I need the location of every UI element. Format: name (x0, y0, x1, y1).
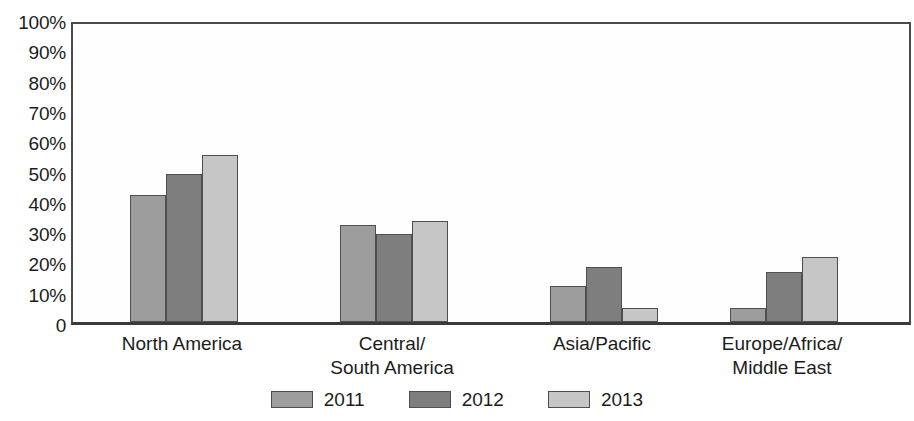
x-axis-category-label: Central/ South America (272, 332, 512, 380)
bar (550, 286, 586, 322)
legend-label: 2013 (601, 390, 643, 409)
y-axis-tick-label: 70% (0, 103, 66, 122)
y-axis-tick-label: 10% (0, 285, 66, 304)
y-axis-tick-label: 40% (0, 194, 66, 213)
legend-item: 2013 (548, 390, 643, 409)
bar (202, 155, 238, 322)
bar (802, 257, 838, 322)
bar (130, 195, 166, 322)
y-axis-tick-label: 0 (0, 316, 66, 335)
bars-layer (73, 24, 909, 322)
y-axis-tick-label: 80% (0, 73, 66, 92)
y-axis: 100%90%80%70%60%50%40%30%20%10%0 (0, 0, 66, 340)
x-axis-category-label: Europe/Africa/ Middle East (662, 332, 902, 380)
legend-label: 2012 (462, 390, 504, 409)
legend-swatch-icon (409, 391, 451, 408)
y-axis-tick-label: 20% (0, 255, 66, 274)
bar (730, 308, 766, 322)
x-axis-category-labels: North AmericaCentral/ South AmericaAsia/… (71, 332, 911, 392)
legend-swatch-icon (548, 391, 590, 408)
bar (586, 267, 622, 322)
bar (376, 234, 412, 322)
legend-item: 2011 (271, 390, 365, 409)
bar (622, 308, 658, 322)
bar (412, 221, 448, 323)
legend-item: 2012 (409, 390, 504, 409)
legend-swatch-icon (271, 391, 313, 408)
bar (340, 225, 376, 322)
plot-area (71, 22, 911, 325)
y-axis-tick-label: 90% (0, 43, 66, 62)
y-axis-tick-label: 60% (0, 134, 66, 153)
y-axis-tick-label: 30% (0, 225, 66, 244)
bar (166, 174, 202, 322)
y-axis-tick-label: 50% (0, 164, 66, 183)
x-axis-category-label: North America (62, 332, 302, 356)
y-axis-tick-label: 100% (0, 13, 66, 32)
chart-legend: 201120122013 (0, 390, 914, 409)
bar-chart: 100%90%80%70%60%50%40%30%20%10%0 North A… (0, 0, 914, 421)
bar (766, 272, 802, 322)
legend-label: 2011 (324, 390, 365, 409)
